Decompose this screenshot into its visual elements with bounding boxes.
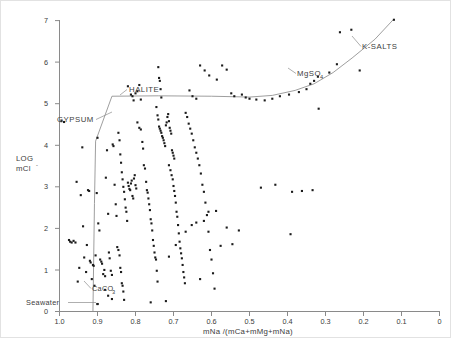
data-point — [199, 64, 201, 66]
data-point — [136, 121, 138, 123]
data-point — [122, 285, 124, 287]
data-point — [124, 198, 126, 200]
data-point — [156, 114, 158, 116]
data-point — [153, 251, 155, 253]
data-point — [188, 89, 190, 91]
x-tick-label: 0.4 — [282, 317, 292, 326]
data-point — [118, 254, 120, 256]
data-point — [149, 209, 151, 211]
data-point — [119, 153, 121, 155]
y-axis-title-superscript: - — [36, 162, 38, 168]
data-point — [201, 184, 203, 186]
annotation-caco3: CaCO 3 — [84, 281, 115, 295]
data-point — [104, 275, 106, 277]
data-point — [359, 69, 361, 71]
y-tick-label: 5 — [44, 99, 48, 108]
data-point — [125, 207, 127, 209]
data-point — [289, 233, 291, 235]
data-point — [118, 139, 120, 141]
data-point — [78, 267, 80, 269]
data-point — [117, 249, 119, 251]
data-point — [100, 261, 102, 263]
caco3-subscript: 3 — [112, 289, 115, 295]
y-tick-label: 3 — [44, 182, 48, 191]
data-point — [274, 184, 276, 186]
data-point — [174, 195, 176, 197]
data-point — [168, 164, 170, 166]
data-point — [111, 274, 113, 276]
data-point — [93, 265, 95, 267]
data-point — [122, 291, 124, 293]
data-point — [180, 252, 182, 254]
data-point — [80, 194, 82, 196]
data-point — [125, 211, 127, 213]
data-point — [191, 133, 193, 135]
data-point — [179, 247, 181, 249]
data-point — [160, 88, 162, 90]
data-point — [305, 88, 307, 90]
data-point — [169, 169, 171, 171]
data-point — [220, 245, 222, 247]
axes-lines — [60, 20, 441, 312]
annotation-halite: HALITE — [120, 85, 159, 95]
data-point — [121, 282, 123, 284]
data-point — [162, 137, 164, 139]
data-point — [203, 191, 205, 193]
x-tick-label: 0.1 — [396, 317, 406, 326]
data-point — [288, 94, 290, 96]
data-point — [238, 229, 240, 231]
data-point — [116, 246, 118, 248]
data-point — [170, 133, 172, 135]
data-point — [241, 94, 243, 96]
data-point — [350, 29, 352, 31]
data-point — [206, 214, 208, 216]
data-point — [155, 106, 157, 108]
data-point — [181, 257, 183, 259]
data-point — [128, 185, 130, 187]
data-point — [107, 295, 109, 297]
x-tick-label: 0.9 — [92, 317, 102, 326]
y-tick-labels: 0 1 2 3 4 5 6 7 — [44, 16, 48, 316]
y-axis-title-line2: mCl — [16, 164, 31, 173]
x-tick-labels: 1.0 0.9 0.8 0.7 0.6 0.5 0.4 0.3 0.2 0.1 … — [54, 317, 441, 326]
y-tick-label: 4 — [44, 141, 48, 150]
data-point — [204, 202, 206, 204]
data-point — [133, 177, 135, 179]
data-point — [90, 261, 92, 263]
data-point — [102, 273, 104, 275]
data-point — [155, 259, 157, 261]
data-point — [328, 72, 330, 74]
data-point — [140, 99, 142, 101]
data-point — [188, 123, 190, 125]
data-point — [177, 224, 179, 226]
data-point — [207, 211, 209, 213]
data-point — [121, 171, 123, 173]
data-point — [175, 211, 177, 213]
data-point — [339, 31, 341, 33]
data-point — [106, 149, 108, 151]
data-point — [115, 203, 117, 205]
data-point — [226, 227, 228, 229]
data-point — [160, 132, 162, 134]
data-point — [115, 215, 117, 217]
data-point — [123, 299, 125, 301]
data-point — [200, 172, 202, 174]
data-point — [99, 259, 101, 261]
data-point — [157, 66, 159, 68]
data-point — [212, 272, 214, 274]
data-point — [131, 95, 133, 97]
data-point — [191, 95, 193, 97]
data-point — [318, 108, 320, 110]
data-point — [85, 271, 87, 273]
data-point — [255, 99, 257, 101]
data-point — [143, 164, 145, 166]
data-point — [183, 276, 185, 278]
data-point — [156, 270, 158, 272]
data-point — [336, 63, 338, 65]
data-point — [109, 257, 111, 259]
data-point — [169, 130, 171, 132]
seawater-data-point — [96, 303, 98, 305]
data-point — [76, 181, 78, 183]
data-point — [82, 225, 84, 227]
data-point — [245, 96, 247, 98]
